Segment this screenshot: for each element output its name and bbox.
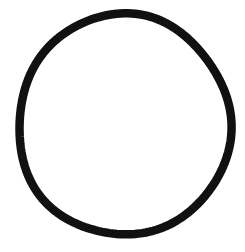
hand-drawn-circle (20, 13, 232, 234)
drawing-canvas (0, 0, 245, 252)
drawing-svg (0, 0, 245, 252)
